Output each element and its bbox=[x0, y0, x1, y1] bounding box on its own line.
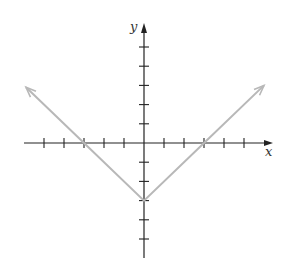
coordinate-plane: x y bbox=[0, 0, 282, 268]
y-axis-arrow-icon bbox=[141, 23, 147, 33]
x-axis-label: x bbox=[265, 144, 273, 159]
y-axis-label: y bbox=[129, 19, 138, 34]
axes bbox=[24, 23, 273, 258]
